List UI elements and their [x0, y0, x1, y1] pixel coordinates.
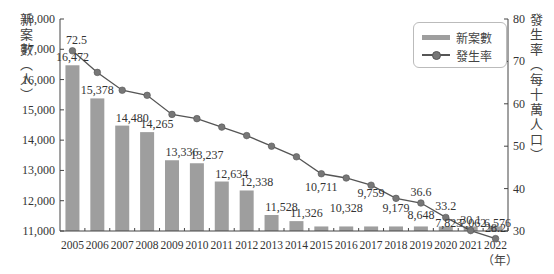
line-value-label: 30.1 — [460, 213, 481, 227]
bar-2011 — [215, 182, 229, 231]
line-value-label: 28.2 — [485, 221, 506, 235]
x-tick-label: 2016 — [335, 239, 358, 251]
x-tick-label: 2010 — [185, 239, 208, 251]
bar-value-label: 11,326 — [290, 206, 323, 220]
x-tick-label: 2014 — [285, 239, 308, 251]
line-point-2006 — [94, 69, 101, 76]
x-axis-unit: （年） — [482, 251, 518, 268]
bar-2012 — [240, 190, 254, 231]
line-marker-icon — [422, 50, 450, 60]
line-point-2011 — [218, 124, 225, 131]
bar-2010 — [190, 163, 204, 231]
legend-item-bar: 新案數 — [422, 29, 492, 45]
bar-2008 — [140, 132, 154, 231]
bar-2005 — [65, 65, 79, 231]
legend-item-line: 發生率 — [422, 47, 492, 63]
y2-tick-label: 30 — [513, 224, 525, 238]
line-point-2010 — [194, 115, 201, 122]
bar-value-label: 9,759 — [358, 186, 385, 200]
line-point-2014 — [293, 154, 300, 161]
legend-line-label: 發生率 — [456, 47, 492, 64]
bar-2016 — [339, 226, 353, 231]
y2-tick-label: 80 — [513, 12, 525, 26]
y2-tick-label: 40 — [513, 182, 525, 196]
line-point-2019 — [418, 200, 425, 207]
x-tick-label: 2007 — [111, 239, 134, 251]
line-point-2007 — [119, 87, 126, 94]
line-point-2013 — [268, 143, 275, 150]
y-tick-label: 15,000 — [22, 103, 55, 117]
bar-2019 — [414, 226, 428, 231]
y2-tick-label: 50 — [513, 139, 525, 153]
bar-2009 — [165, 160, 179, 231]
bar-2007 — [115, 126, 129, 231]
y-tick-label: 11,000 — [22, 224, 55, 238]
bar-swatch-icon — [422, 32, 450, 42]
x-tick-label: 2017 — [360, 239, 383, 251]
legend-bar-label: 新案數 — [456, 29, 492, 46]
bar-value-label: 10,328 — [330, 201, 363, 215]
line-point-2022 — [492, 235, 499, 242]
bar-2006 — [90, 98, 104, 231]
bar-2018 — [389, 226, 403, 231]
bar-value-label: 15,378 — [81, 83, 114, 97]
y2-tick-label: 70 — [513, 54, 525, 68]
x-tick-label: 2021 — [459, 239, 482, 251]
x-tick-label: 2020 — [434, 239, 457, 251]
left-axis-title: 新案數︵人︶ — [18, 12, 34, 102]
y2-tick-label: 60 — [513, 97, 525, 111]
line-point-2012 — [243, 132, 250, 139]
bar-value-label: 10,711 — [305, 180, 338, 194]
x-tick-label: 2011 — [210, 239, 233, 251]
bar-value-label: 16,472 — [56, 50, 89, 64]
line-value-label: 33.2 — [435, 199, 456, 213]
x-tick-label: 2013 — [260, 239, 283, 251]
bar-value-label: 13,237 — [190, 148, 223, 162]
bar-value-label: 9,179 — [383, 201, 410, 215]
bar-2015 — [314, 226, 328, 231]
line-value-label: 72.5 — [66, 33, 87, 47]
x-tick-label: 2018 — [385, 239, 408, 251]
x-tick-label: 2005 — [61, 239, 84, 251]
legend: 新案數 發生率 — [413, 22, 507, 68]
bar-value-label: 12,338 — [240, 175, 273, 189]
y-tick-label: 13,000 — [22, 163, 55, 177]
y-tick-label: 12,000 — [22, 194, 55, 208]
bar-value-label: 8,648 — [407, 208, 434, 222]
y-tick-label: 14,000 — [22, 133, 55, 147]
x-tick-label: 2015 — [310, 239, 333, 251]
line-point-2016 — [343, 175, 350, 182]
line-point-2015 — [318, 170, 325, 177]
line-point-2008 — [144, 92, 151, 99]
x-tick-label: 2006 — [86, 239, 109, 251]
bar-value-label: 14,265 — [141, 117, 174, 131]
x-tick-label: 2009 — [161, 239, 184, 251]
right-axis-title: 發生率︵每十萬人口︶ — [528, 12, 544, 162]
bar-2014 — [289, 221, 303, 231]
x-tick-label: 2008 — [136, 239, 159, 251]
bar-2017 — [364, 226, 378, 231]
x-tick-label: 2019 — [409, 239, 432, 251]
x-tick-label: 2012 — [235, 239, 258, 251]
bar-2013 — [265, 215, 279, 231]
line-value-label: 36.6 — [410, 185, 431, 199]
